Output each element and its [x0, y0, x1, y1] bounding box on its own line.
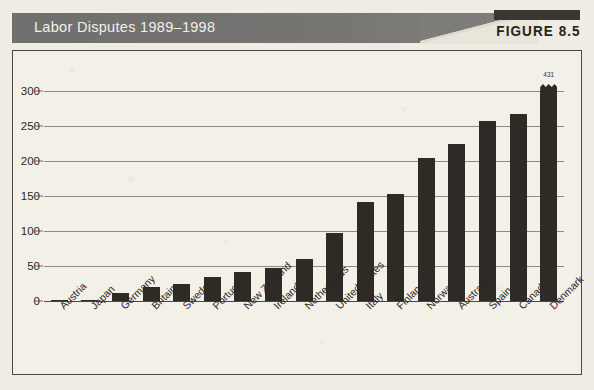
bar-norway: [418, 158, 435, 301]
bar-series: 431: [44, 91, 564, 301]
bar-broken-top-icon: [540, 84, 557, 92]
y-tick-label-0: 0: [34, 295, 40, 307]
bar-denmark: 431: [540, 91, 557, 301]
bar-value-label-denmark: 431: [543, 71, 554, 78]
y-tick-label-150: 150: [21, 190, 40, 202]
y-tick-label-200: 200: [21, 155, 40, 167]
bar-finland: [387, 194, 404, 301]
y-tick-label-100: 100: [21, 225, 40, 237]
bar-spain: [479, 121, 496, 301]
y-tick-label-50: 50: [27, 260, 40, 272]
plot-area: 050100150200250300 431: [44, 91, 564, 301]
x-axis-labels: AustriaJapanGermanyBritainSwedenPortugal…: [44, 303, 564, 383]
page-title: Labor Disputes 1989–1998: [34, 19, 215, 35]
y-tick-label-250: 250: [21, 120, 40, 132]
y-tick-label-300: 300: [21, 85, 40, 97]
figure-tag-label: FIGURE 8.5: [497, 22, 581, 39]
bar-australia: [448, 144, 465, 301]
figure-tag-bar: [494, 10, 580, 20]
bar-canada: [510, 114, 527, 301]
